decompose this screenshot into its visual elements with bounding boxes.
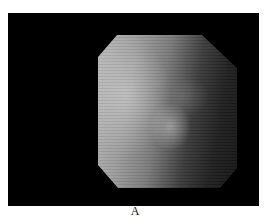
endoscopic-image: [98, 35, 237, 188]
panel-label: A: [0, 205, 270, 218]
image-frame: [8, 13, 259, 206]
